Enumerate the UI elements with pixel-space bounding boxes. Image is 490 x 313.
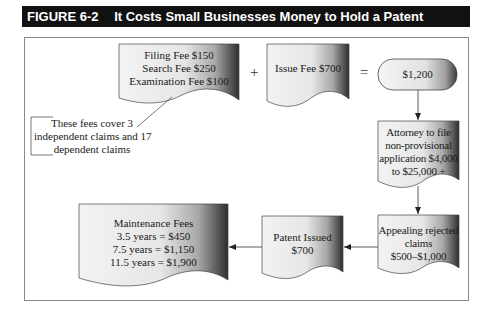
appealing-line-3: $500–$1,000 — [376, 250, 461, 263]
total-label: $1,200 — [378, 68, 457, 81]
maintenance-7-5-years: 7.5 years = $1,150 — [79, 243, 228, 256]
annotation-line-1: These fees cover 3 — [34, 117, 150, 130]
maintenance-text: Maintenance Fees 3.5 years = $450 7.5 ye… — [79, 217, 228, 269]
maintenance-title: Maintenance Fees — [79, 217, 228, 230]
annotation-line-2: independent claims and 17 — [34, 130, 150, 143]
filing-fee-label: Filing Fee $150 — [119, 49, 239, 62]
patent-issued-label: Patent Issued — [262, 231, 343, 244]
claims-annotation: These fees cover 3 independent claims an… — [34, 117, 150, 156]
appealing-text: Appealing rejected claims $500–$1,000 — [376, 224, 461, 263]
issue-fee-text: Issue Fee $700 — [267, 62, 349, 75]
issue-fee-shape — [267, 44, 349, 106]
search-fee-label: Search Fee $250 — [119, 62, 239, 75]
total-text: $1,200 — [378, 68, 457, 81]
equals-operator: = — [360, 65, 368, 80]
maintenance-3-5-years: 3.5 years = $450 — [79, 230, 228, 243]
examination-fee-label: Examination Fee $100 — [119, 75, 239, 88]
issue-fee-label: Issue Fee $700 — [267, 62, 349, 75]
attorney-line-4: to $25,000 + — [377, 165, 460, 178]
plus-operator: + — [250, 65, 258, 80]
attorney-line-1: Attorney to file — [377, 126, 460, 139]
attorney-text: Attorney to file non-provisional applica… — [377, 126, 460, 178]
maintenance-11-5-years: 11.5 years = $1,900 — [79, 256, 228, 269]
initial-fees-text: Filing Fee $150 Search Fee $250 Examinat… — [119, 49, 239, 88]
attorney-line-3: application $4,000 — [377, 152, 460, 165]
patent-issued-text: Patent Issued $700 — [262, 231, 343, 257]
attorney-line-2: non-provisional — [377, 139, 460, 152]
appealing-line-2: claims — [376, 237, 461, 250]
annotation-line-3: dependent claims — [34, 143, 150, 156]
appealing-line-1: Appealing rejected — [376, 224, 461, 237]
patent-issued-amount: $700 — [262, 244, 343, 257]
